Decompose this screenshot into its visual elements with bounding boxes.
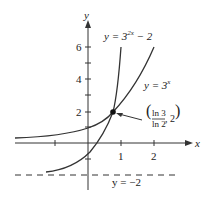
y-axis-label: y [84, 9, 89, 21]
point-y: , 2 [165, 113, 175, 124]
asymptote-label: y = −2 [112, 176, 141, 188]
curve1-label: y = 32x − 2 [104, 29, 152, 42]
x-axis-label: x [195, 137, 200, 149]
curve-3-pow-2x-minus-2 [46, 47, 121, 172]
curve-3-pow-x [15, 47, 154, 138]
x-axis-arrow-icon [185, 140, 193, 146]
point-denominator: ln 2 [152, 119, 166, 129]
annotation-arrow [119, 114, 142, 120]
y-axis-arrow-icon [85, 20, 91, 28]
chart: ( ) y x y = 32x − 2 y = 3x y = −2 1 2 2 … [0, 0, 210, 202]
x-tick-1: 1 [118, 150, 124, 162]
svg-text:(: ( [146, 102, 151, 120]
curve2-label: y = 3x [144, 78, 170, 91]
intersection-point [110, 109, 116, 115]
svg-text:): ) [175, 102, 180, 120]
point-numerator: ln 3 [152, 108, 166, 118]
x-tick-2: 2 [151, 150, 157, 162]
y-tick-2: 2 [76, 106, 82, 118]
y-tick-4: 4 [76, 73, 82, 85]
y-tick-6: 6 [76, 41, 82, 53]
